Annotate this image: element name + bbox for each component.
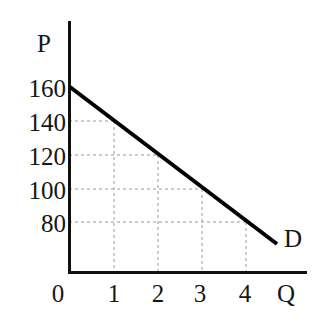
y-tick-label-140: 140 bbox=[0, 110, 66, 135]
y-axis-title: P bbox=[37, 31, 51, 56]
x-tick-label-0: 0 bbox=[38, 281, 78, 306]
x-tick-label-4: 4 bbox=[225, 281, 265, 306]
y-tick-label-100: 100 bbox=[0, 178, 66, 203]
x-tick-label-1: 1 bbox=[94, 281, 134, 306]
x-axis-title: Q bbox=[277, 281, 295, 306]
y-tick-label-120: 120 bbox=[0, 144, 66, 169]
x-tick-label-3: 3 bbox=[180, 281, 220, 306]
gridlines-vertical bbox=[114, 121, 246, 272]
y-tick-label-80: 80 bbox=[0, 211, 66, 236]
y-tick-label-160: 160 bbox=[0, 76, 66, 101]
x-tick-label-2: 2 bbox=[138, 281, 178, 306]
gridlines-horizontal bbox=[69, 121, 246, 222]
demand-curve-figure: P 160 140 120 100 80 0 1 2 3 4 Q D bbox=[0, 0, 328, 323]
demand-curve-line bbox=[70, 87, 277, 244]
demand-curve-label: D bbox=[284, 226, 302, 251]
